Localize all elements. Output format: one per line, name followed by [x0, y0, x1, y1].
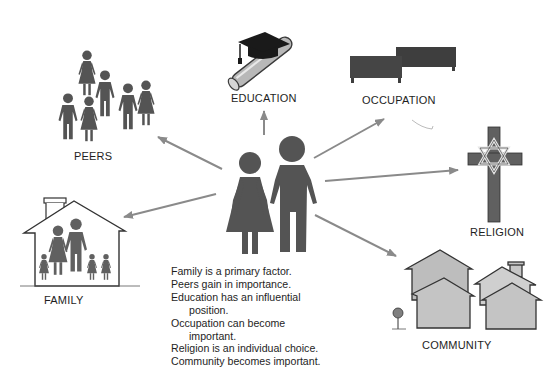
influence-notes: Family is a primary factor. Peers gain i…: [171, 265, 321, 368]
occupation-sketch-mark: [412, 120, 433, 129]
arrow-to-community: [315, 215, 396, 256]
note-occupation-cont: important.: [171, 330, 321, 343]
label-peers: PEERS: [74, 150, 112, 162]
note-family: Family is a primary factor.: [171, 265, 321, 278]
diploma-graduation-cap-icon: [226, 32, 295, 92]
note-religion: Religion is an individual choice.: [171, 342, 321, 355]
label-community: COMMUNITY: [422, 339, 492, 351]
couple-icon: [226, 136, 317, 254]
note-education: Education has an influential: [171, 291, 321, 304]
note-peers: Peers gain in importance.: [171, 278, 321, 291]
note-community: Community becomes important.: [171, 355, 321, 368]
note-occupation: Occupation can become: [171, 317, 321, 330]
arrow-to-occupation: [314, 119, 384, 158]
group-of-people-icon: [59, 51, 155, 142]
note-education-cont: position.: [171, 304, 321, 317]
arrow-to-peers: [158, 137, 222, 169]
label-occupation: OCCUPATION: [362, 94, 436, 106]
label-family: FAMILY: [44, 294, 84, 306]
label-religion: RELIGION: [470, 226, 524, 238]
desks-icon: [350, 47, 456, 83]
label-education: EDUCATION: [231, 92, 297, 104]
arrow-to-religion: [325, 170, 458, 181]
houses-icon: [392, 250, 541, 329]
arrow-to-family: [124, 194, 216, 217]
house-with-family-icon: [20, 198, 140, 286]
cross-star-of-david-icon: [468, 127, 522, 222]
